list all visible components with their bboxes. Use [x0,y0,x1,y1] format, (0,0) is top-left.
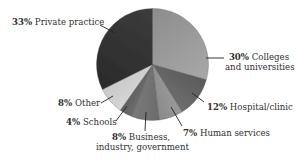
label-other-text: Other [75,98,100,108]
label-human-services: 7% Human services [183,128,270,138]
label-colleges-pct: 30% [229,52,249,62]
label-private-text: Private practice [35,17,105,27]
label-hospital: 12% Hospital/clinic [207,102,293,112]
label-business: 8% Business, industry, government [96,132,186,152]
label-business-text1: Business, [129,132,170,142]
label-schools: 4% Schools [66,117,117,127]
label-schools-pct: 4% [66,117,80,127]
label-other-pct: 8% [58,98,72,108]
label-colleges: 30% Colleges and universities [225,52,293,72]
label-private-pct: 33% [12,17,32,27]
label-colleges-text1: Colleges [252,52,289,62]
label-schools-text: Schools [83,117,117,127]
pie-slices [97,9,209,121]
label-hospital-text: Hospital/clinic [230,102,293,112]
label-business-pct: 8% [112,132,126,142]
label-hospital-pct: 12% [207,102,227,112]
label-human-text: Human services [200,128,270,138]
label-other: 8% Other [58,98,100,108]
label-colleges-text2: and universities [225,62,293,72]
label-private-practice: 33% Private practice [12,17,104,27]
label-business-text2: industry, government [96,142,186,152]
